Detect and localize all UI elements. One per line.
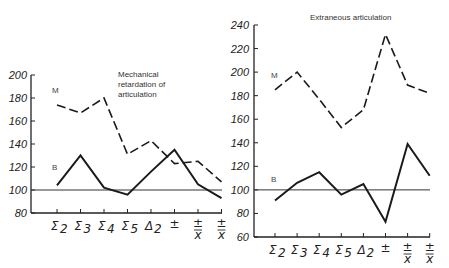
y-tick-label: 100: [231, 184, 250, 196]
series-line-b: [275, 144, 430, 222]
x-category-label: Σ5: [335, 243, 352, 260]
svg-text:4: 4: [107, 222, 115, 236]
y-tick-label: 200: [230, 66, 250, 78]
x-category-label: Σ4: [98, 219, 115, 236]
x-category-label: ±x: [403, 240, 413, 266]
y-tick-label: 140: [231, 137, 250, 149]
y-tick-label: 160: [9, 115, 28, 127]
y-tick-label: 120: [231, 160, 250, 172]
x-category-label: Σ4: [313, 243, 330, 260]
series-label-b: B: [52, 163, 57, 172]
series-line-m: [275, 34, 430, 127]
y-tick-label: 140: [9, 138, 28, 150]
series-line-b: [57, 150, 222, 198]
x-category-label: ±x: [216, 216, 226, 242]
svg-text:±: ±: [169, 217, 179, 231]
y-tick-label: 200: [8, 69, 28, 81]
series-line-m: [57, 98, 222, 182]
svg-text:3: 3: [300, 246, 308, 260]
x-category-label: ±: [169, 217, 179, 231]
svg-text:Σ: Σ: [75, 219, 83, 233]
x-category-label: Σ3: [75, 219, 92, 236]
y-tick-label: 220: [230, 43, 250, 55]
svg-text:2: 2: [60, 222, 68, 236]
chart-title: retardation of: [118, 80, 166, 89]
x-category-label: ±x: [425, 240, 435, 266]
y-tick-label: 180: [9, 92, 28, 104]
svg-text:2: 2: [278, 246, 286, 260]
chart-canvas: Mechanicalretardation ofarticulation8010…: [0, 0, 449, 268]
svg-text:Σ: Σ: [51, 219, 59, 233]
chart-title: Mechanical: [118, 70, 159, 79]
series-label-m: M: [271, 71, 278, 80]
x-category-label: Δ2: [356, 243, 374, 260]
svg-text:3: 3: [84, 222, 92, 236]
svg-text:x: x: [403, 252, 412, 266]
svg-text:Σ: Σ: [98, 219, 106, 233]
y-tick-label: 180: [231, 90, 250, 102]
svg-text:x: x: [217, 228, 226, 242]
svg-text:±: ±: [380, 241, 390, 255]
x-category-label: Σ5: [122, 219, 139, 236]
svg-text:Δ: Δ: [144, 219, 153, 233]
series-label-b: B: [271, 175, 276, 184]
y-tick-label: 120: [9, 161, 28, 173]
x-category-label: ±x: [193, 216, 203, 242]
svg-text:Σ: Σ: [291, 243, 299, 257]
svg-text:x: x: [193, 228, 202, 242]
y-tick-label: 60: [237, 231, 250, 243]
y-tick-label: 80: [237, 207, 250, 219]
svg-text:Σ: Σ: [122, 219, 130, 233]
svg-text:Σ: Σ: [335, 243, 343, 257]
svg-text:Σ: Σ: [269, 243, 277, 257]
x-category-label: Σ3: [291, 243, 308, 260]
svg-text:Δ: Δ: [356, 243, 365, 257]
x-category-label: ±: [380, 241, 390, 255]
svg-text:2: 2: [154, 222, 162, 236]
y-tick-label: 100: [9, 184, 28, 196]
svg-text:5: 5: [344, 246, 352, 260]
x-category-label: Δ2: [144, 219, 162, 236]
x-category-label: Σ2: [51, 219, 68, 236]
y-tick-label: 160: [231, 113, 250, 125]
y-tick-label: 240: [230, 19, 250, 31]
svg-text:x: x: [425, 252, 434, 266]
svg-text:4: 4: [322, 246, 330, 260]
y-tick-label: 80: [15, 207, 28, 219]
svg-text:Σ: Σ: [313, 243, 321, 257]
chart-title: Extraneous articulation: [310, 13, 391, 22]
right-chart: Extraneous articulation60801001201401601…: [230, 13, 435, 266]
svg-text:5: 5: [131, 222, 139, 236]
chart-title: articulation: [118, 90, 157, 99]
svg-text:2: 2: [366, 246, 374, 260]
x-category-label: Σ2: [269, 243, 286, 260]
series-label-m: M: [52, 86, 59, 95]
left-chart: Mechanicalretardation ofarticulation8010…: [8, 69, 227, 242]
